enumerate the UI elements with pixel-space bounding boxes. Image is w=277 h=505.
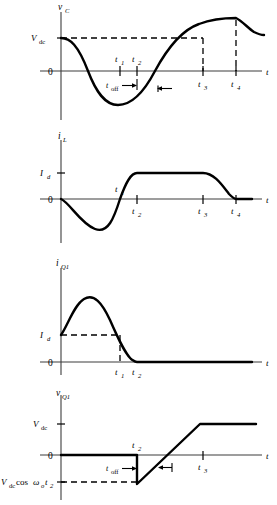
vc-axis-label-sub: C bbox=[65, 7, 70, 14]
vq1-t2-label: t bbox=[132, 440, 135, 450]
vq1-neg-v: V bbox=[1, 477, 8, 487]
vc-t1-label-sub: 1 bbox=[121, 59, 124, 66]
iq1-t1-label-sub: 1 bbox=[121, 372, 124, 379]
vc-time-axis-label: t bbox=[266, 67, 269, 77]
il-time-axis-label: t bbox=[266, 195, 269, 205]
vc-axis-label: v bbox=[58, 2, 63, 12]
il-axis-label-sub: L bbox=[62, 136, 67, 143]
vq1-vdc-label-sub: dc bbox=[41, 424, 47, 431]
vc-toff-label: t bbox=[106, 81, 109, 90]
vc-vdc-label-sub: dc bbox=[39, 38, 45, 45]
iq1-axis-label: i bbox=[56, 258, 59, 268]
il-curve bbox=[61, 173, 252, 230]
il-id-label: I bbox=[39, 168, 44, 178]
vc-toff-arrowhead bbox=[132, 83, 137, 87]
il-t4-label: t bbox=[231, 206, 234, 216]
vq1-t3-label: t bbox=[198, 462, 201, 472]
vq1-toff-label-sub: off bbox=[111, 468, 119, 475]
il-zero-label: 0 bbox=[48, 195, 53, 205]
vq1-vdc-label: V bbox=[33, 419, 40, 429]
vq1-toff-annotation: t off bbox=[106, 464, 137, 475]
panel-vc: v C V dc 0 t 1 t 2 t 3 t 4 bbox=[31, 2, 269, 120]
iq1-id-label-sub: d bbox=[47, 335, 51, 342]
iq1-t2-label: t bbox=[132, 367, 135, 377]
vq1-zero-label: 0 bbox=[48, 451, 53, 461]
iq1-axis-label-sub: Q1 bbox=[61, 263, 69, 270]
iq1-zero-label: 0 bbox=[48, 358, 53, 368]
il-t1-label: t bbox=[115, 184, 118, 194]
il-time-marks: t 1 t 2 t 3 t 4 bbox=[115, 184, 241, 218]
il-id-label-sub: d bbox=[47, 173, 51, 180]
vq1-negative-level-label: V dc cos ω o t 2 bbox=[1, 477, 54, 489]
vq1-marker-arrowhead bbox=[158, 465, 163, 469]
vq1-t2-label-sub: 2 bbox=[138, 445, 142, 452]
iq1-curve bbox=[61, 297, 252, 362]
vc-t3-label-sub: 3 bbox=[203, 84, 208, 91]
vc-curve bbox=[61, 18, 264, 105]
vq1-toff-label: t bbox=[106, 464, 109, 473]
panel-il: i L I d 0 t 1 t 2 t 3 t 4 t bbox=[39, 131, 269, 243]
vq1-time-axis-label: t bbox=[266, 451, 269, 461]
iq1-time-marks: t 1 t 2 bbox=[115, 367, 142, 379]
iq1-id-label: I bbox=[39, 330, 44, 340]
vc-zero-label: 0 bbox=[48, 67, 53, 77]
vq1-axis-label: v bbox=[56, 388, 61, 398]
vq1-neg-t: t bbox=[45, 477, 48, 487]
vc-interval-marker bbox=[157, 86, 172, 93]
il-t2-label-sub: 2 bbox=[138, 211, 142, 218]
il-t4-label-sub: 4 bbox=[237, 211, 241, 218]
vc-toff-annotation: t off bbox=[106, 79, 137, 92]
il-t2-label: t bbox=[132, 206, 135, 216]
vq1-time-marks: t 2 t 3 bbox=[132, 440, 208, 474]
vq1-t3-label-sub: 3 bbox=[203, 467, 208, 474]
vq1-neg-v-sub: dc bbox=[9, 482, 15, 489]
waveform-figure: v C V dc 0 t 1 t 2 t 3 t 4 bbox=[0, 0, 277, 505]
il-t3-label: t bbox=[198, 206, 201, 216]
vc-vdc-label: V bbox=[31, 33, 38, 43]
vc-t3-label: t bbox=[198, 79, 201, 89]
panel-vq1: v Q1 V dc 0 V dc cos ω o t 2 t 2 t 3 bbox=[1, 388, 269, 500]
il-t1-label-sub: 1 bbox=[121, 189, 124, 196]
vc-t4-label-sub: 4 bbox=[237, 84, 241, 91]
vq1-axis-label-sub: Q1 bbox=[62, 393, 70, 400]
vc-t2-label: t bbox=[132, 54, 135, 64]
iq1-t1-label: t bbox=[115, 367, 118, 377]
vq1-neg-cos: cos bbox=[16, 477, 28, 487]
il-axis-label: i bbox=[58, 131, 61, 141]
vc-t4-label: t bbox=[231, 79, 234, 89]
vq1-interval-marker bbox=[158, 463, 172, 472]
vq1-neg-omega: ω bbox=[33, 477, 39, 487]
panel-iq1: i Q1 I d 0 t 1 t 2 t bbox=[39, 258, 269, 379]
iq1-t2-label-sub: 2 bbox=[138, 372, 142, 379]
vc-t1-label: t bbox=[115, 54, 118, 64]
vq1-curve bbox=[61, 424, 256, 484]
vc-t2-label-sub: 2 bbox=[138, 59, 142, 66]
vq1-neg-t-sub: 2 bbox=[50, 482, 54, 489]
waveform-svg: v C V dc 0 t 1 t 2 t 3 t 4 bbox=[0, 0, 277, 505]
vc-toff-label-sub: off bbox=[111, 85, 119, 92]
il-t3-label-sub: 3 bbox=[203, 211, 208, 218]
iq1-time-axis-label: t bbox=[266, 358, 269, 368]
